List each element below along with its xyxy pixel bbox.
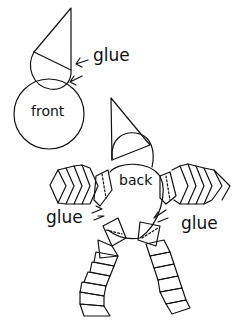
front-hat <box>34 8 71 70</box>
glue-arrow-top <box>76 58 88 67</box>
glue-label-left: glue <box>46 207 83 227</box>
front-label: front <box>31 103 64 119</box>
front-head <box>31 52 72 89</box>
glue-label-right: glue <box>181 213 218 233</box>
glue-arrow-left <box>92 206 104 220</box>
glue-arrow-body <box>70 76 82 85</box>
back-label: back <box>119 172 152 188</box>
back-hat <box>111 98 150 160</box>
right-leg <box>138 222 190 314</box>
left-leg <box>80 218 126 316</box>
front-piece <box>14 8 88 149</box>
left-arm <box>50 165 112 206</box>
glue-label-top: glue <box>93 45 130 65</box>
diagram-canvas: glue front back glue glue <box>0 0 247 326</box>
right-arm <box>160 164 230 204</box>
back-head <box>112 133 153 167</box>
